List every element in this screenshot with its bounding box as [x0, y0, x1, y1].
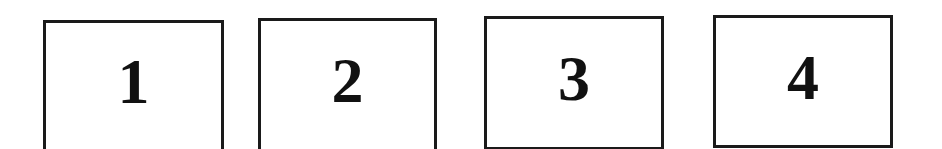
numbered-box-1: 1 — [43, 20, 224, 149]
numbered-box-4: 4 — [713, 15, 893, 148]
box-number-label: 3 — [558, 47, 590, 111]
numbered-box-2: 2 — [258, 18, 437, 149]
box-number-label: 4 — [787, 46, 819, 110]
numbered-box-3: 3 — [484, 16, 664, 149]
box-number-label: 1 — [118, 50, 150, 114]
box-number-label: 2 — [332, 49, 364, 113]
